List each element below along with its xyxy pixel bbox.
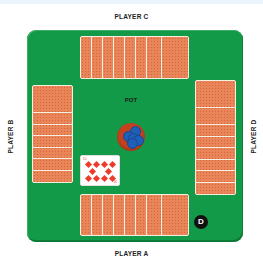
chip xyxy=(127,138,138,149)
diamond-pip-icon xyxy=(85,161,92,168)
diamond-pip-icon xyxy=(93,161,100,168)
diamond-pip-icon xyxy=(105,168,112,175)
card-back xyxy=(32,85,73,113)
card-back xyxy=(195,80,236,108)
diamond-pip-icon xyxy=(101,175,108,182)
diamond-pip-icon xyxy=(101,161,108,168)
card-corner-bottom: 10 xyxy=(114,180,117,184)
pot-label: POT xyxy=(119,97,143,103)
player-c-label: PLAYER C xyxy=(0,13,263,20)
player-b-label: PLAYER B xyxy=(7,117,14,157)
face-up-card-ten-of-diamonds: 10 10 xyxy=(80,155,120,186)
diamond-pip-icon xyxy=(89,168,96,175)
diamond-pip-icon xyxy=(109,161,116,168)
card-back xyxy=(161,194,189,236)
pot-chips-icon xyxy=(117,123,145,151)
top-band xyxy=(0,0,263,4)
diamond-pip-icon xyxy=(93,175,100,182)
card-corner-top: 10 xyxy=(83,157,86,161)
player-a-label: PLAYER A xyxy=(0,250,263,257)
dealer-button-icon: D xyxy=(194,215,208,229)
diamond-pip-icon xyxy=(85,175,92,182)
card-back xyxy=(161,36,189,79)
player-d-label: PLAYER D xyxy=(250,117,257,157)
